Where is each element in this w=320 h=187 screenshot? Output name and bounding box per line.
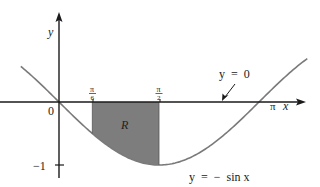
pointer-arrow-icon — [222, 94, 229, 102]
svg-text:π: π — [157, 85, 161, 94]
x-axis-label: x — [282, 99, 289, 113]
region-label: R — [120, 118, 129, 132]
line-y0-label: y = 0 — [219, 67, 250, 81]
curve-neg-sin — [21, 59, 307, 165]
y-axis-label: y — [47, 25, 54, 39]
x-tick-label-pi6: π 6 — [89, 85, 96, 102]
pointer-arrow-shaft — [225, 84, 235, 97]
svg-text:2: 2 — [157, 94, 161, 102]
x-tick-label-pi2: π 2 — [156, 85, 163, 102]
svg-text:6: 6 — [91, 94, 95, 102]
svg-text:π: π — [90, 85, 94, 94]
curve-equation-label: y = − sin x — [189, 170, 250, 184]
x-pi-label: π — [270, 100, 276, 112]
origin-label: 0 — [48, 104, 54, 118]
diagram-canvas: y x π 0 −1 π 6 π 2 R y = 0 y = − sin x — [0, 0, 320, 187]
y-tick-label-neg1: −1 — [33, 159, 46, 173]
region-r-shading — [92, 102, 159, 165]
